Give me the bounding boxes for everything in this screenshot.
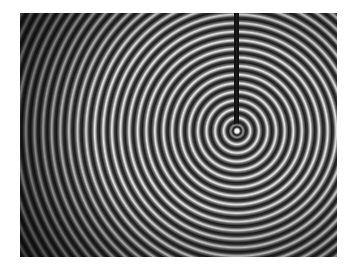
- vignette: [20, 13, 337, 257]
- vibrating-rod: [234, 13, 239, 125]
- ripple-source: [229, 123, 245, 139]
- ripple-photo: [20, 13, 337, 257]
